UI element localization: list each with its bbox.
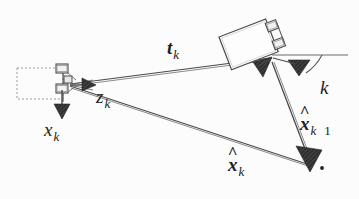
label-measurement-sub: k — [104, 96, 110, 111]
label-translation: tk — [167, 38, 178, 57]
label-estimate-prior-sub: k — [311, 123, 317, 138]
label-true-pose-sub: k — [53, 129, 59, 144]
estimate-vertex-arrowhead — [296, 146, 322, 172]
hat-accent-post: ^ — [228, 144, 238, 161]
label-angle-base: k — [320, 77, 328, 98]
label-estimate-prior: ^xk1 — [300, 114, 322, 133]
diagram-vector-layer — [0, 0, 359, 199]
estimate-vertex-dot — [320, 166, 324, 170]
label-measurement-base: z — [96, 86, 103, 107]
robot-body-left — [56, 64, 76, 102]
true-pose-vector-xk — [54, 90, 70, 119]
hat-accent-prior: ^ — [300, 103, 310, 120]
label-angle: k — [320, 78, 328, 97]
label-estimate-prior-suffix: 1 — [324, 123, 331, 138]
label-measurement: zk — [96, 87, 109, 106]
label-true-pose: xk — [44, 120, 58, 139]
label-true-pose-base: x — [44, 119, 52, 140]
robot-body-tilted — [219, 16, 287, 70]
heading-angle-arc — [306, 55, 322, 73]
diagram-canvas: xk zk tk k ^xk1 ^xk — [0, 0, 359, 199]
label-estimate-post-sub: k — [239, 164, 245, 179]
xk-arrowhead — [54, 104, 70, 119]
label-translation-sub: k — [173, 47, 179, 62]
label-estimate-post: ^xk — [228, 155, 243, 174]
label-translation-base: t — [167, 37, 172, 58]
